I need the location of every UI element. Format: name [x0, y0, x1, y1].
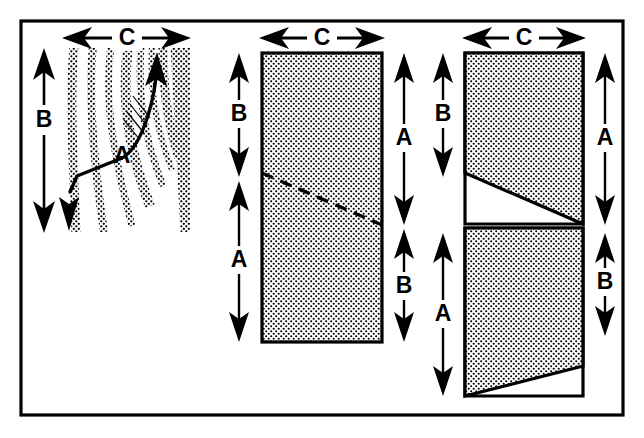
panel1-label-c: C	[119, 24, 136, 50]
panel3-left-label-a: A	[435, 300, 452, 326]
panel1-label-a: A	[114, 142, 131, 168]
panel2-label-c: C	[314, 24, 331, 50]
panel3-right-label-a: A	[597, 124, 614, 150]
figure-canvas: C B A C	[0, 0, 644, 438]
panel3-lower-board	[465, 228, 583, 396]
panel3-label-c: C	[516, 24, 533, 50]
panel2-left-label-b: B	[231, 100, 248, 126]
panel3-right-label-b: B	[597, 268, 614, 294]
panel2-right-label-b: B	[396, 272, 413, 298]
panel1-label-b: B	[36, 106, 53, 132]
technical-diagram: C B A C	[0, 0, 644, 438]
panel2-left-label-a: A	[231, 246, 248, 272]
panel3-left-label-b: B	[435, 100, 452, 126]
panel2-right-label-a: A	[396, 124, 413, 150]
